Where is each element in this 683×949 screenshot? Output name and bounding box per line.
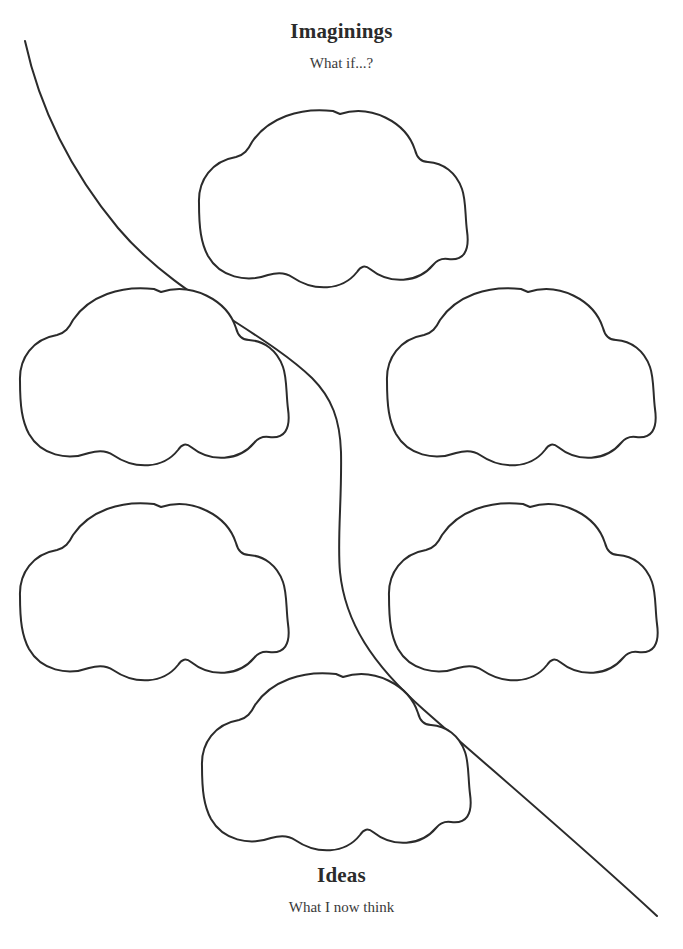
footer-subtitle: What I now think [0,888,683,917]
header-block: Imaginings What if...? [0,18,683,73]
worksheet-canvas [0,0,683,949]
page-subtitle: What if...? [0,44,683,73]
footer-block: Ideas What I now think [0,862,683,917]
cloud-lower-right[interactable] [389,503,658,680]
worksheet-page: Imaginings What if...? Ideas What I now … [0,0,683,949]
page-title: Imaginings [0,18,683,44]
cloud-bottom-center[interactable] [202,673,471,850]
cloud-top-center[interactable] [199,110,468,287]
cloud-middle-left[interactable] [20,288,289,465]
footer-title: Ideas [0,862,683,888]
cloud-middle-right[interactable] [387,288,656,465]
cloud-lower-left[interactable] [20,503,289,680]
